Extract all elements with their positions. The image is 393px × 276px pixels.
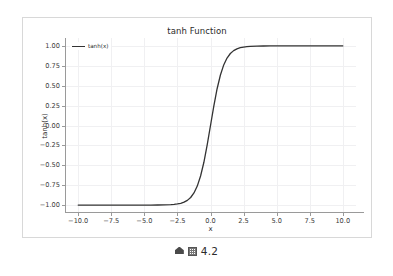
x-tick-mark — [144, 213, 145, 216]
x-tick-label: 2.5 — [238, 217, 249, 225]
y-tick-label: −0.50 — [40, 161, 60, 169]
x-tick-mark — [111, 213, 112, 216]
y-tick-label: 0.50 — [45, 82, 60, 90]
y-tick-label: −1.00 — [40, 201, 60, 209]
x-tick-mark — [277, 213, 278, 216]
legend-label: tanh(x) — [88, 43, 108, 49]
y-tick-label: −0.25 — [40, 141, 60, 149]
tanh-curve — [65, 38, 356, 213]
x-tick-mark — [78, 213, 79, 216]
x-tick-label: 0.0 — [205, 217, 216, 225]
plot-area: 1.000.750.500.250.00−0.25−0.50−0.75−1.00… — [65, 38, 356, 213]
x-tick-mark — [343, 213, 344, 216]
x-tick-mark — [244, 213, 245, 216]
x-tick-mark — [211, 213, 212, 216]
plot-title: tanh Function — [23, 26, 371, 36]
diamond-marker-icon — [175, 247, 184, 256]
y-tick-label: 0.25 — [45, 102, 60, 110]
caption-number: 4.2 — [201, 245, 218, 257]
x-tick-label: 10.0 — [335, 217, 350, 225]
x-tick-mark — [310, 213, 311, 216]
x-tick-label: −2.5 — [169, 217, 185, 225]
figure-card: tanh Function 1.000.750.500.250.00−0.25−… — [22, 17, 372, 238]
y-tick-label: −0.75 — [40, 181, 60, 189]
legend: tanh(x) — [70, 42, 111, 50]
x-tick-label: −5.0 — [136, 217, 152, 225]
legend-line-swatch — [72, 46, 85, 47]
figure-caption: 4.2 — [0, 245, 393, 257]
y-tick-label: 0.75 — [45, 62, 60, 70]
x-tick-mark — [177, 213, 178, 216]
x-tick-label: 5.0 — [271, 217, 282, 225]
tofu-box-icon — [188, 247, 197, 256]
x-axis-label: x — [65, 225, 356, 233]
plot-axes: 1.000.750.500.250.00−0.25−0.50−0.75−1.00… — [65, 38, 356, 213]
y-tick-label: 1.00 — [45, 42, 60, 50]
y-axis-label: tanh(x) — [41, 113, 49, 139]
x-tick-label: −7.5 — [103, 217, 119, 225]
x-tick-label: 7.5 — [304, 217, 315, 225]
x-tick-label: −10.0 — [68, 217, 88, 225]
